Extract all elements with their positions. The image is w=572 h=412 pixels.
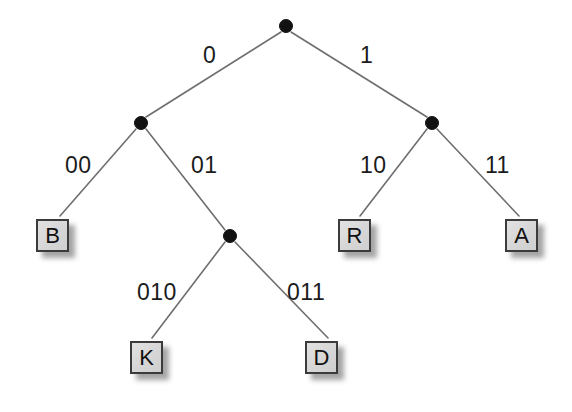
internal-node-root xyxy=(280,20,293,33)
leaf-box-r: R xyxy=(338,219,371,252)
leaf-label-a: A xyxy=(514,225,529,247)
tree-graphics-layer xyxy=(0,0,572,412)
edge-label-10: 10 xyxy=(360,154,387,177)
edge-label-01: 01 xyxy=(191,154,218,177)
edge-label-11: 11 xyxy=(485,154,510,177)
internal-node-n1 xyxy=(426,117,439,130)
edge-label-00: 00 xyxy=(65,154,92,177)
leaf-label-d: D xyxy=(314,347,330,369)
internal-node-n01 xyxy=(224,230,237,243)
edge-label-1: 1 xyxy=(360,44,373,67)
leaf-label-k: K xyxy=(139,347,154,369)
leaf-label-r: R xyxy=(347,225,363,247)
leaf-box-a: A xyxy=(505,219,538,252)
internal-node-n0 xyxy=(135,117,148,130)
leaf-box-d: D xyxy=(305,341,338,374)
edge-label-0: 0 xyxy=(203,44,216,67)
edge-label-010: 010 xyxy=(137,281,177,304)
nodes-group xyxy=(135,20,439,243)
leaf-box-k: K xyxy=(130,341,163,374)
huffman-tree-diagram: 0100011011010011 BKDRA xyxy=(0,0,572,412)
tree-edge-1 xyxy=(291,32,427,117)
leaf-box-b: B xyxy=(36,219,69,252)
tree-edge-01 xyxy=(146,129,225,230)
edge-label-011: 011 xyxy=(287,281,325,304)
leaf-label-b: B xyxy=(45,225,60,247)
